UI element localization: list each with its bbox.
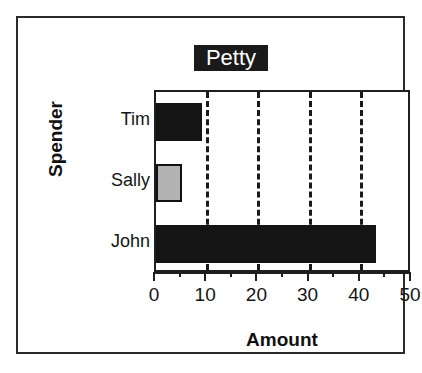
chart-title[interactable]: Petty — [194, 45, 268, 71]
y-axis-label-john: John — [92, 231, 150, 252]
x-tick-label-50: 50 — [390, 284, 422, 306]
x-tick-label-40: 40 — [339, 284, 379, 306]
x-tick-10 — [204, 272, 206, 281]
x-axis-title: Amount — [154, 329, 410, 351]
bar-sally[interactable] — [156, 164, 182, 202]
x-tick-20 — [255, 272, 257, 281]
x-tick-50 — [409, 272, 411, 281]
x-tick-label-30: 30 — [288, 284, 328, 306]
x-tick-label-0: 0 — [134, 284, 174, 306]
y-axis-label-sally: Sally — [92, 170, 150, 191]
x-minor-tick-15 — [230, 272, 232, 277]
x-minor-tick-45 — [383, 272, 385, 277]
x-minor-tick-5 — [179, 272, 181, 277]
y-axis-category-labels: Tim Sally John — [88, 90, 150, 272]
bar-john[interactable] — [156, 225, 376, 263]
x-tick-30 — [307, 272, 309, 281]
bar-tim[interactable] — [156, 103, 202, 141]
x-tick-40 — [358, 272, 360, 281]
x-minor-tick-25 — [281, 272, 283, 277]
y-axis-label-tim: Tim — [92, 109, 150, 130]
y-axis-title: Spender — [45, 79, 67, 199]
plot-area — [154, 90, 410, 272]
x-minor-tick-35 — [332, 272, 334, 277]
chart-frame: Petty Spender Tim Sally John 01020304050… — [16, 16, 405, 354]
x-tick-label-10: 10 — [185, 284, 225, 306]
x-tick-0 — [153, 272, 155, 281]
x-tick-label-20: 20 — [236, 284, 276, 306]
